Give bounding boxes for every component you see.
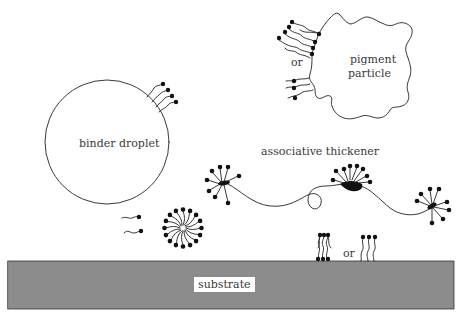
- binder-surfactant-heads: [161, 82, 178, 104]
- substrate-label: substrate: [194, 277, 255, 292]
- associative-thickener-label: associative thickener: [261, 145, 379, 158]
- thickener-heads: [205, 164, 452, 226]
- free-surfactants: [122, 217, 140, 233]
- substrate-surfactant-heads-monolayer: [361, 235, 377, 239]
- micelle: [162, 207, 204, 249]
- pigment-or-label: or: [291, 56, 303, 69]
- substrate-or-label: or: [343, 247, 355, 260]
- substrate-surfactants-bilayer: [318, 236, 331, 259]
- associative-thickener: [208, 167, 448, 222]
- pigment-surfactant-group-lower: [286, 78, 313, 98]
- pigment-label-line2: particle: [348, 67, 391, 80]
- diagram-svg: [0, 0, 461, 318]
- pigment-surfactant-heads-lower: [292, 79, 297, 100]
- pigment-label-line1: pigment: [350, 53, 396, 66]
- substrate-surfactants-monolayer: [361, 238, 375, 261]
- diagram-canvas: pigment particle or binder droplet assoc…: [0, 0, 461, 318]
- free-surfactant-heads: [137, 215, 143, 233]
- binder-droplet-label: binder droplet: [79, 137, 159, 150]
